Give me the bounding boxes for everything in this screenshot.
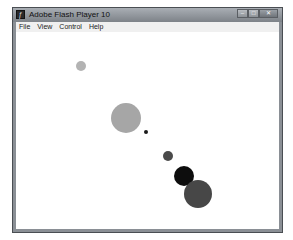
circle-shape xyxy=(76,61,86,71)
circle-shape xyxy=(111,103,141,133)
title-bar[interactable]: ƒ Adobe Flash Player 10 – □ ✕ xyxy=(13,8,282,22)
maximize-icon[interactable]: □ xyxy=(248,9,259,18)
menu-control[interactable]: Control xyxy=(59,22,82,32)
menu-bar: File View Control Help xyxy=(16,22,279,32)
menu-help[interactable]: Help xyxy=(89,22,103,32)
window-controls: – □ ✕ xyxy=(237,9,278,18)
flash-stage[interactable] xyxy=(16,32,279,229)
minimize-icon[interactable]: – xyxy=(237,9,248,18)
menu-file[interactable]: File xyxy=(19,22,30,32)
circle-shape xyxy=(184,180,212,208)
circle-shape xyxy=(163,151,173,161)
window-title: Adobe Flash Player 10 xyxy=(29,9,110,21)
circle-shape xyxy=(144,130,148,134)
flash-app-icon: ƒ xyxy=(16,10,25,19)
close-icon[interactable]: ✕ xyxy=(259,9,278,18)
menu-view[interactable]: View xyxy=(37,22,52,32)
flash-player-window: ƒ Adobe Flash Player 10 – □ ✕ File View … xyxy=(12,7,283,233)
